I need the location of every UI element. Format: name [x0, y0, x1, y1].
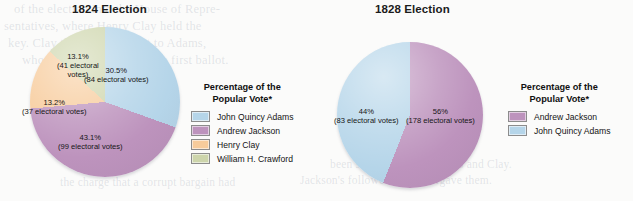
legend-item[interactable]: John Quincy Adams	[508, 124, 610, 137]
legend-swatch-icon	[191, 139, 210, 150]
legend-title-1828: Percentage of the Popular Vote*	[508, 82, 610, 105]
legend-items-1824: John Quincy AdamsAndrew JacksonHenry Cla…	[191, 110, 293, 165]
legend-item[interactable]: Henry Clay	[191, 138, 293, 151]
legend-swatch-icon	[191, 125, 210, 136]
legend-title-1824: Percentage of the Popular Vote*	[191, 82, 293, 105]
slice-label-line: (37 electoral votes)	[22, 107, 87, 116]
legend-item[interactable]: John Quincy Adams	[191, 110, 293, 123]
legend-item[interactable]: Andrew Jackson	[191, 124, 293, 137]
slice-label-line: votes)	[57, 70, 99, 79]
slice-label-andrew-jackson: 43.1%(99 electoral votes)	[58, 133, 123, 151]
slice-label-line: (99 electoral votes)	[58, 142, 123, 151]
legend-1828: Percentage of the Popular Vote* Andrew J…	[508, 82, 610, 138]
legend-item-label: Andrew Jackson	[217, 126, 280, 136]
legend-item-label: William H. Crawford	[217, 154, 293, 164]
legend-swatch-icon	[508, 111, 527, 122]
slice-label-line: (178 electoral votes)	[406, 116, 475, 125]
slice-label-line: 56%	[406, 107, 475, 116]
legend-title-line-2: Popular Vote*	[212, 94, 272, 104]
figure-canvas: of the election into the House of Repre-…	[0, 0, 633, 201]
chart-title-1828: 1828 Election	[375, 3, 450, 15]
legend-title-line-1: Percentage of the	[204, 82, 281, 92]
slice-label-line: 44%	[334, 107, 399, 116]
legend-swatch-icon	[191, 153, 210, 164]
legend-item[interactable]: Andrew Jackson	[508, 110, 610, 123]
chart-panel-1824: 1824 Election 30.5%(84 electoral votes) …	[0, 0, 320, 201]
legend-item-label: Andrew Jackson	[534, 112, 597, 122]
slice-label-line: 13.2%	[22, 98, 87, 107]
slice-label-william-h-crawford: 13.1%(41 electoralvotes)	[57, 52, 99, 80]
legend-1824: Percentage of the Popular Vote* John Qui…	[191, 82, 293, 166]
slice-label-line: (41 electoral	[57, 61, 99, 70]
legend-swatch-icon	[508, 125, 527, 136]
legend-items-1828: Andrew JacksonJohn Quincy Adams	[508, 110, 610, 137]
slice-label-line: (83 electoral votes)	[334, 116, 399, 125]
legend-item-label: John Quincy Adams	[217, 112, 293, 122]
slice-label-andrew-jackson: 56%(178 electoral votes)	[406, 107, 475, 125]
chart-title-1824: 1824 Election	[72, 3, 147, 15]
legend-item[interactable]: William H. Crawford	[191, 152, 293, 165]
legend-item-label: John Quincy Adams	[534, 126, 610, 136]
legend-swatch-icon	[191, 111, 210, 122]
legend-title-line-1: Percentage of the	[521, 82, 598, 92]
slice-label-line: 43.1%	[58, 133, 123, 142]
slice-label-henry-clay: 13.2%(37 electoral votes)	[22, 98, 87, 116]
legend-title-line-2: Popular Vote*	[529, 94, 589, 104]
slice-label-john-quincy-adams: 44%(83 electoral votes)	[334, 107, 399, 125]
slice-label-line: 13.1%	[57, 52, 99, 61]
legend-item-label: Henry Clay	[217, 140, 260, 150]
